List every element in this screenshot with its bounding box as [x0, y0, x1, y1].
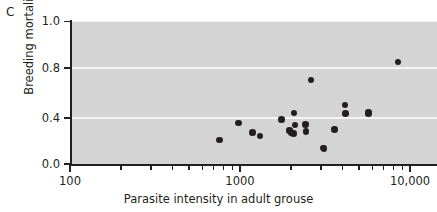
- x-axis-title: Parasite intensity in adult grouse: [0, 192, 437, 206]
- x-axis-line: [70, 164, 437, 166]
- x-tick-label: 100: [35, 174, 105, 188]
- x-tick-minor: [223, 165, 224, 170]
- data-point: [292, 122, 299, 129]
- x-tick-minor: [290, 165, 291, 170]
- x-tick-label: 1000: [205, 174, 275, 188]
- x-tick-minor: [320, 165, 321, 170]
- data-point: [365, 110, 372, 117]
- data-point: [331, 126, 338, 133]
- y-axis-line: [70, 20, 72, 165]
- x-tick-major: [69, 165, 70, 172]
- x-tick-minor: [232, 165, 233, 170]
- x-tick-minor: [402, 165, 403, 170]
- y-tick: [64, 117, 70, 119]
- x-tick-minor: [120, 165, 121, 170]
- x-tick-minor: [372, 165, 373, 170]
- data-point: [216, 137, 223, 144]
- y-tick-label: 1.0: [20, 14, 60, 28]
- gridline: [72, 67, 437, 69]
- x-tick-major: [409, 165, 410, 172]
- x-tick-minor: [172, 165, 173, 170]
- data-point: [303, 128, 310, 135]
- data-point: [395, 59, 402, 66]
- x-tick-minor: [383, 165, 384, 170]
- x-tick-minor: [393, 165, 394, 170]
- data-point: [342, 110, 349, 117]
- x-tick-minor: [202, 165, 203, 170]
- y-tick-label: 0.0: [20, 157, 60, 171]
- data-point: [257, 133, 264, 140]
- x-tick-minor: [342, 165, 343, 170]
- x-tick-minor: [188, 165, 189, 170]
- y-tick: [64, 67, 70, 69]
- y-tick-label: 0.4: [20, 111, 60, 125]
- data-point: [291, 110, 298, 117]
- data-point: [342, 102, 349, 109]
- x-tick-label: 10,000: [375, 174, 437, 188]
- x-tick-minor: [213, 165, 214, 170]
- data-point: [308, 77, 315, 84]
- figure-panel-c: C Breeding mortality 0.00.40.81.0 100100…: [0, 0, 437, 212]
- data-point: [278, 116, 285, 123]
- x-tick-major: [239, 165, 240, 172]
- data-point: [321, 145, 328, 152]
- panel-letter: C: [6, 5, 14, 19]
- x-tick-minor: [150, 165, 151, 170]
- data-point: [302, 121, 309, 128]
- data-point: [235, 120, 242, 127]
- data-point: [249, 129, 256, 136]
- x-tick-minor: [358, 165, 359, 170]
- plot-area: [72, 21, 437, 164]
- gridline: [72, 21, 437, 23]
- gridline: [72, 117, 437, 119]
- y-tick-label: 0.8: [20, 61, 60, 75]
- y-tick: [64, 21, 70, 23]
- data-point: [290, 130, 297, 137]
